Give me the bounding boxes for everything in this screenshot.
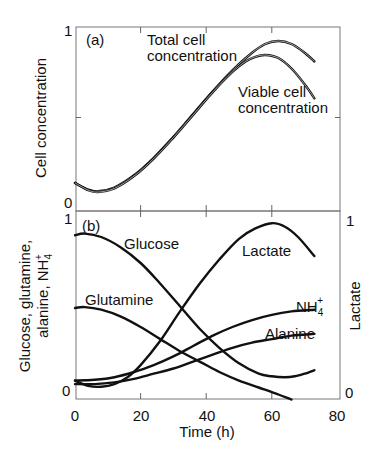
xtick-label-80: 80 — [329, 407, 346, 424]
x-axis-label: Time (h) — [179, 423, 234, 440]
series-label-viable-line1: Viable cell — [238, 83, 306, 100]
panel-b-ytick-0: 0 — [62, 382, 70, 399]
panel-a-y-axis-label: Cell concentration — [32, 58, 49, 178]
chart-canvas: (a) (b) 1 0 1 0 1 0 0 20 40 60 80 Time (… — [0, 0, 378, 455]
series-label-nh4-sup: + — [317, 295, 323, 306]
series-label-glucose: Glucose — [124, 235, 179, 252]
panel-b-y-axis-label-line2: alanine, NH4+ — [33, 254, 54, 338]
panel-b-label: (b) — [82, 217, 100, 234]
panel-b-ytick-1: 1 — [64, 210, 72, 227]
xtick-label-0: 0 — [71, 407, 79, 424]
series-label-total-line1: Total cell — [147, 31, 205, 48]
panel-b-y-axis-label-sub: 4 — [43, 254, 54, 260]
panel-b-y2tick-0: 0 — [345, 384, 353, 401]
panel-a-series-line-viable-cell-concentration — [75, 55, 314, 192]
panel-a-ytick-1: 1 — [64, 22, 72, 39]
panel-b-y-axis-label-line1: Glucose, glutamine, — [16, 240, 33, 373]
panel-b-series-line-nh4 — [75, 310, 314, 381]
series-label-alanine: Alanine — [265, 325, 315, 342]
series-label-lactate: Lactate — [242, 242, 291, 259]
panel-b-y2-axis-label: Lactate — [346, 281, 363, 330]
panel-a-label: (a) — [86, 31, 104, 48]
series-label-nh4: NH4+ — [296, 295, 324, 318]
panel-b-y-axis-label-main: alanine, NH — [34, 260, 51, 338]
series-label-total-line2: concentration — [147, 47, 237, 64]
xtick-label-20: 20 — [133, 407, 150, 424]
panel-b-y2tick-1: 1 — [346, 212, 354, 229]
series-label-nh4-sub: 4 — [318, 307, 324, 318]
panel-a-ytick-0: 0 — [64, 194, 72, 211]
xtick-label-40: 40 — [199, 407, 216, 424]
panel-b-y-axis-label-sup: + — [33, 254, 44, 260]
series-label-nh4-main: NH — [296, 298, 318, 315]
panel-a-series-line-highlight-viable-cell-concentration — [75, 55, 314, 192]
xtick-label-60: 60 — [264, 407, 281, 424]
series-label-glutamine: Glutamine — [85, 291, 153, 308]
series-label-viable-line2: concentration — [238, 99, 328, 116]
